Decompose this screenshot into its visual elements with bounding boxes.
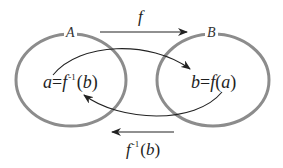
element-a-arg: b [83, 72, 92, 92]
element-b-arg: a [221, 72, 230, 92]
arrow-inv-fn: f [126, 140, 131, 159]
curve-arrow-b-to-a [84, 92, 222, 116]
element-a-inverse-sup: -1 [68, 72, 76, 82]
element-a-equals: = [52, 72, 62, 92]
element-a-close-paren: ) [92, 72, 98, 92]
arrow-f-inverse-label: f-1(b) [126, 140, 160, 158]
set-b-label: B [205, 26, 218, 40]
arrow-inv-sup: -1 [132, 139, 140, 149]
element-a-var: a [43, 72, 52, 92]
arrow-inv-close-paren: ) [154, 140, 160, 159]
element-b-expression: b=f(a) [191, 73, 236, 91]
element-b-close-paren: ) [230, 72, 236, 92]
diagram-canvas: A B f a=f-1(b) b=f(a) f-1(b) [0, 0, 283, 168]
element-b-var: b [191, 72, 200, 92]
element-a-fn: f [62, 72, 67, 92]
element-b-equals: = [200, 72, 210, 92]
set-a-label: A [64, 26, 77, 40]
element-a-expression: a=f-1(b) [43, 73, 98, 91]
arrow-f-label: f [138, 8, 143, 25]
